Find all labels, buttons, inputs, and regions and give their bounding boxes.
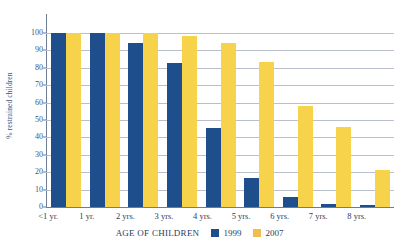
- y-tick-mark: [43, 137, 46, 138]
- bar-1999-2-yrs: [128, 43, 143, 207]
- y-tick-label: 0: [39, 203, 43, 211]
- gridline: [46, 207, 394, 208]
- bar-group: [240, 33, 279, 207]
- bars-layer: [47, 33, 394, 207]
- x-tick-label: 1 yr.: [68, 211, 107, 221]
- y-axis-title: % restrained children: [0, 0, 18, 210]
- bar-group: [47, 33, 86, 207]
- bar-group: [278, 33, 317, 207]
- bar-group: [124, 33, 163, 207]
- bar-1999--1-yr: [51, 33, 66, 207]
- y-tick-label: 90: [35, 46, 43, 54]
- x-tick-label: 3 yrs.: [145, 211, 184, 221]
- y-tick-label: 20: [35, 168, 43, 176]
- bar-group: [317, 33, 356, 207]
- legend-label-2007: 2007: [265, 228, 283, 238]
- bar-group: [201, 33, 240, 207]
- x-tick-label: 7 yrs.: [299, 211, 338, 221]
- bar-2007-6-yrs: [298, 106, 313, 207]
- y-tick-mark: [43, 102, 46, 103]
- bar-2007-1-yr: [105, 33, 120, 207]
- x-tick-label: 4 yrs.: [183, 211, 222, 221]
- bar-2007-5-yrs: [259, 62, 274, 207]
- legend-swatch-1999-icon: [211, 229, 219, 237]
- x-tick-label: 8 yrs.: [338, 211, 377, 221]
- bar-1999-1-yr: [90, 33, 105, 207]
- bar-1999-8-yrs: [360, 205, 375, 207]
- bar-group: [86, 33, 125, 207]
- y-tick-label: 10: [35, 186, 43, 194]
- x-tick-label: 5 yrs.: [222, 211, 261, 221]
- plot-area: 0102030405060708090100: [18, 14, 394, 210]
- y-tick-label: 30: [35, 151, 43, 159]
- bar-2007-2-yrs: [143, 33, 158, 207]
- bar-group: [163, 33, 202, 207]
- x-axis-tick-labels: <1 yr.1 yr.2 yrs.3 yrs.4 yrs.5 yrs.6 yrs…: [29, 211, 376, 221]
- y-tick-label: 60: [35, 99, 43, 107]
- legend-label-1999: 1999: [223, 228, 241, 238]
- bar-1999-7-yrs: [321, 204, 336, 207]
- y-tick-label: 50: [35, 116, 43, 124]
- y-tick-mark: [43, 120, 46, 121]
- bar-2007-8-yrs: [375, 170, 390, 207]
- x-tick-label: <1 yr.: [29, 211, 68, 221]
- y-tick-mark: [43, 172, 46, 173]
- y-tick-mark: [43, 50, 46, 51]
- bar-2007-4-yrs: [221, 43, 236, 207]
- y-tick-label: 40: [35, 133, 43, 141]
- bar-1999-4-yrs: [206, 128, 221, 207]
- y-tick-mark: [43, 189, 46, 190]
- legend-row: AGE OF CHILDREN 1999 2007: [0, 228, 399, 238]
- y-tick-label: 70: [35, 81, 43, 89]
- y-tick-mark: [43, 207, 46, 208]
- bar-1999-5-yrs: [244, 178, 259, 207]
- bar-1999-6-yrs: [283, 197, 298, 207]
- legend-item-1999[interactable]: 1999: [211, 228, 241, 238]
- y-tick-label: 100: [31, 29, 43, 37]
- legend-item-2007[interactable]: 2007: [253, 228, 283, 238]
- y-axis-title-text: % restrained children: [5, 72, 14, 138]
- bar-chart: % restrained children 010203040506070809…: [0, 0, 399, 250]
- x-tick-label: 6 yrs.: [260, 211, 299, 221]
- x-tick-label: 2 yrs.: [106, 211, 145, 221]
- legend-swatch-2007-icon: [253, 229, 261, 237]
- bar-2007--1-yr: [66, 33, 81, 207]
- x-axis-title: AGE OF CHILDREN: [116, 228, 200, 238]
- y-tick-mark: [43, 85, 46, 86]
- y-tick-mark: [43, 33, 46, 34]
- y-tick-mark: [43, 154, 46, 155]
- y-tick-label: 80: [35, 64, 43, 72]
- bar-1999-3-yrs: [167, 63, 182, 207]
- bar-2007-7-yrs: [336, 127, 351, 207]
- bar-2007-3-yrs: [182, 36, 197, 207]
- y-tick-mark: [43, 67, 46, 68]
- bar-group: [356, 33, 395, 207]
